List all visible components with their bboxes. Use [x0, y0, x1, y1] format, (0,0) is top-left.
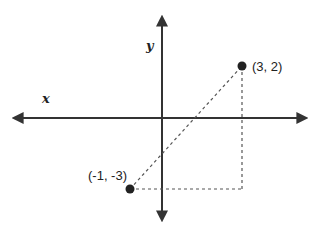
y-axis-label: y [145, 38, 155, 53]
coordinate-plane: y x (3, 2) (-1, -3) [0, 0, 316, 230]
point-3-2 [238, 62, 247, 71]
hypotenuse-dashed [130, 66, 242, 189]
point-label-neg1-neg3: (-1, -3) [88, 168, 127, 183]
x-axis-label: x [41, 91, 50, 106]
point-neg1-neg3 [126, 185, 135, 194]
point-label-3-2: (3, 2) [252, 59, 282, 74]
